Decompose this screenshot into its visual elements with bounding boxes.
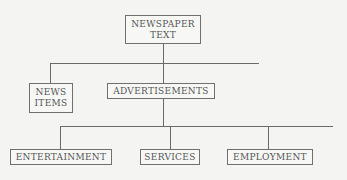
node-entertainment: ENTERTAINMENT [10, 149, 112, 165]
node-newspaper-text: NEWSPAPER TEXT [125, 15, 201, 44]
node-label-line: TEXT [150, 30, 176, 41]
connector-to-news-items [50, 63, 51, 83]
connector-to-advertisements [163, 63, 164, 83]
connector-to-entertainment [60, 126, 61, 149]
connector-level2-bus [60, 126, 333, 127]
node-employment: EMPLOYMENT [227, 149, 313, 165]
node-label-line: NEWS [35, 87, 66, 98]
connector-root-down [163, 44, 164, 64]
connector-level1-bus [50, 63, 259, 64]
connector-to-employment [268, 126, 269, 149]
node-label-line: ADVERTISEMENTS [113, 86, 209, 97]
node-label-line: SERVICES [144, 152, 195, 163]
node-advertisements: ADVERTISEMENTS [107, 83, 215, 99]
node-label-line: EMPLOYMENT [233, 152, 307, 163]
connector-to-services [170, 126, 171, 149]
node-label-line: ENTERTAINMENT [16, 152, 107, 163]
node-news-items: NEWS ITEMS [29, 83, 73, 113]
node-label-line: NEWSPAPER [131, 19, 195, 30]
connector-advertisements-down [163, 99, 164, 126]
hierarchy-diagram: NEWSPAPER TEXT NEWS ITEMS ADVERTISEMENTS… [0, 0, 347, 180]
node-label-line: ITEMS [34, 98, 67, 109]
node-services: SERVICES [140, 149, 200, 165]
